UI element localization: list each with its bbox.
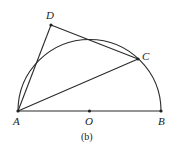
label-O: O [85, 115, 93, 127]
semicircle-arc [18, 40, 161, 112]
segment-DC [51, 25, 138, 59]
label-B: B [158, 115, 165, 127]
point-D [49, 23, 52, 26]
point-O [88, 109, 91, 112]
figure-caption: (b) [81, 131, 93, 143]
point-A [16, 109, 19, 112]
segment-AD [18, 25, 51, 111]
label-D: D [45, 9, 54, 21]
point-C [136, 57, 139, 60]
point-B [159, 109, 162, 112]
label-C: C [142, 50, 150, 62]
label-A: A [12, 115, 20, 127]
geometry-diagram: D C A O B (b) [0, 0, 173, 152]
segment-AC [18, 59, 138, 111]
